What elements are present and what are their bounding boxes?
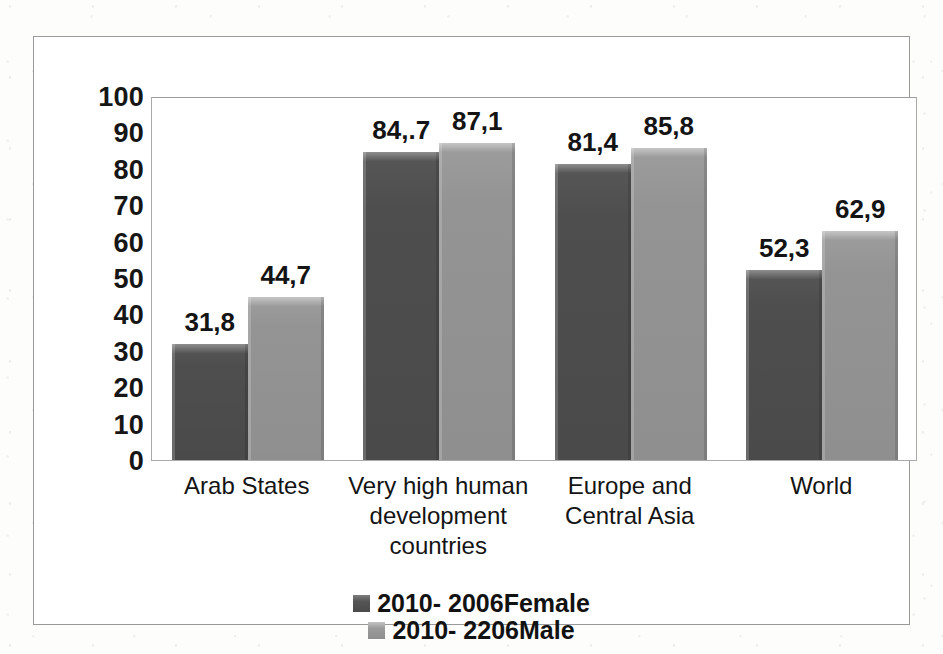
x-axis-tick-label-line: countries [343,531,535,561]
chart-frame: 1009080706050403020100 31,844,784,.787,1… [33,36,910,625]
y-axis-tick-label: 50 [74,266,144,293]
y-axis-tick-label: 80 [74,156,144,183]
bar-left-edge [363,152,366,460]
legend-item-label: 2010- 2206Male [392,618,574,643]
bar-group: 31,844,7 [152,98,344,460]
y-axis-tick-label: 20 [74,375,144,402]
x-axis-tick-label: World [726,471,918,501]
y-axis-tick-label: 0 [74,448,144,475]
bar[interactable]: 85,8 [631,148,707,460]
legend-item[interactable]: 2010- 2006Female [353,591,590,616]
y-axis-tick-label: 90 [74,120,144,147]
bar-right-edge [895,231,898,460]
bar-left-edge [172,344,175,460]
bar-group: 84,.787,1 [344,98,536,460]
x-axis-tick-label-line: Central Asia [534,501,726,531]
bar-left-edge [746,270,749,460]
x-axis-tick-label: Very high humandevelopmentcountries [343,471,535,562]
x-axis-category-labels: Arab StatesVery high humandevelopmentcou… [151,471,917,579]
bar-top-bevel [439,143,515,152]
bar-top-bevel [172,344,248,353]
y-axis-tick-label: 40 [74,302,144,329]
bar-left-edge [248,297,251,460]
legend-swatch-male-icon [368,622,385,639]
bar-value-label: 84,.7 [372,117,430,143]
bar[interactable]: 62,9 [822,231,898,460]
x-axis-tick-label-line: Europe and [534,471,726,501]
bar-right-edge [321,297,324,460]
bar-top-bevel [746,270,822,279]
bar-top-bevel [248,297,324,306]
bar[interactable]: 87,1 [439,143,515,460]
legend-item-label: 2010- 2006Female [377,591,590,616]
plot-area: 31,844,784,.787,181,485,852,362,9 [151,97,917,461]
chart-legend: 2010- 2006Female2010- 2206Male [34,591,909,643]
bar-value-label: 81,4 [567,129,618,155]
bar-top-bevel [822,231,898,240]
bar[interactable]: 31,8 [172,344,248,460]
bar-value-label: 44,7 [260,262,311,288]
bar[interactable]: 84,.7 [363,152,439,460]
bar-top-bevel [363,152,439,161]
bar-value-label: 31,8 [184,309,235,335]
bar-right-edge [704,148,707,460]
bar-left-edge [439,143,442,460]
bar-right-edge [512,143,515,460]
legend-item[interactable]: 2010- 2206Male [368,618,574,643]
bar-left-edge [555,164,558,460]
bar-left-edge [631,148,634,460]
bar[interactable]: 44,7 [248,297,324,460]
bar-value-label: 85,8 [643,113,694,139]
bar-top-bevel [555,164,631,173]
bar[interactable]: 52,3 [746,270,822,460]
x-axis-tick-label-line: Very high human [343,471,535,501]
y-axis-tick-label: 70 [74,193,144,220]
y-axis-tick-label: 60 [74,229,144,256]
bar-group: 52,362,9 [727,98,919,460]
y-axis-tick-label: 10 [74,411,144,438]
bar-value-label: 62,9 [835,196,886,222]
x-axis-tick-label: Arab States [151,471,343,501]
y-axis-tick-label: 30 [74,338,144,365]
legend-swatch-female-icon [353,595,370,612]
bar-top-bevel [631,148,707,157]
bar-value-label: 87,1 [452,108,503,134]
bar-left-edge [822,231,825,460]
x-axis-tick-label: Europe andCentral Asia [534,471,726,531]
bar-group: 81,485,8 [535,98,727,460]
bar-value-label: 52,3 [759,235,810,261]
bar[interactable]: 81,4 [555,164,631,460]
x-axis-tick-label-line: development [343,501,535,531]
y-axis: 1009080706050403020100 [72,97,144,461]
y-axis-tick-label: 100 [74,84,144,111]
x-axis-tick-label-line: Arab States [151,471,343,501]
x-axis-tick-label-line: World [726,471,918,501]
